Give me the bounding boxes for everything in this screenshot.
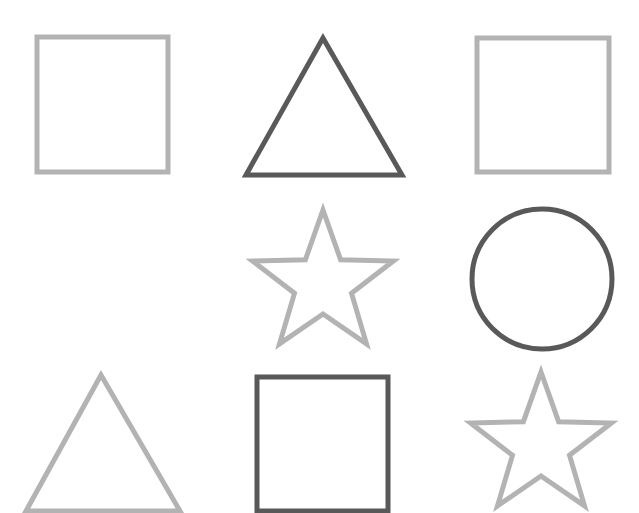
shapes-canvas	[0, 0, 639, 513]
light-triangle-icon	[26, 375, 180, 511]
dark-triangle-icon	[246, 38, 402, 175]
light-square-icon	[477, 38, 609, 172]
light-star-icon	[471, 372, 612, 506]
dark-circle-icon	[472, 209, 612, 349]
dark-square-icon	[257, 377, 388, 511]
light-square-icon	[37, 37, 168, 172]
light-star-icon	[253, 210, 394, 344]
